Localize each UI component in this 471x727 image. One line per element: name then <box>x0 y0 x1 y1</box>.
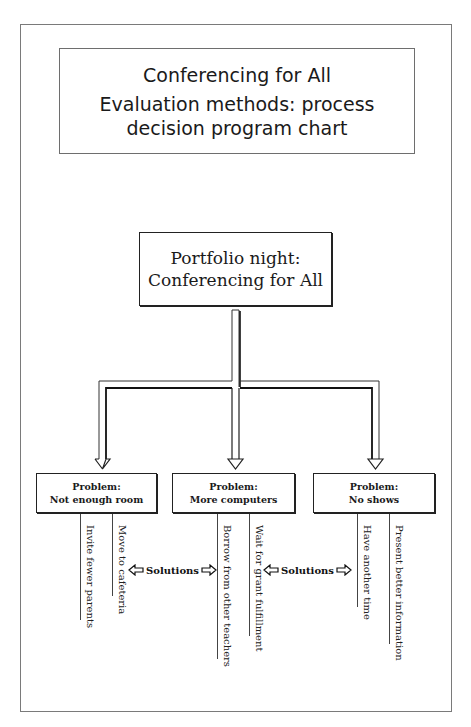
hollow-left-arrow-icon <box>263 564 279 576</box>
solution-text: Wait for grant fulfillment <box>253 525 265 652</box>
problem-name: No shows <box>349 493 399 506</box>
problem-name: More computers <box>190 493 278 506</box>
problem-label: Problem: <box>72 480 120 493</box>
solution-line <box>217 514 218 659</box>
down-arrow-icon <box>95 459 110 469</box>
hollow-right-arrow-icon <box>201 564 217 576</box>
trunk-connector <box>232 310 239 387</box>
solution-text: Borrow from other teachers <box>221 525 233 667</box>
down-arrow-icon <box>368 459 383 469</box>
problem-name: Not enough room <box>50 493 144 506</box>
solutions-label-2: Solutions <box>263 564 352 576</box>
problem-node-1: Problem: Not enough room <box>36 473 157 513</box>
solution-text: Present better information <box>393 525 405 661</box>
hollow-left-arrow-icon <box>128 564 144 576</box>
problem-label: Problem: <box>209 480 257 493</box>
solution-line <box>357 514 358 607</box>
solutions-text: Solutions <box>281 565 334 576</box>
problem-node-3: Problem: No shows <box>313 473 435 513</box>
problem-node-2: Problem: More computers <box>172 473 295 513</box>
problem-label: Problem: <box>350 480 398 493</box>
solution-text: Move to cafeteria <box>116 525 128 614</box>
solution-line <box>80 514 81 620</box>
down-arrow-icon <box>228 459 243 469</box>
solutions-text: Solutions <box>146 565 199 576</box>
solutions-label-1: Solutions <box>128 564 217 576</box>
solution-text: Have another time <box>361 525 373 620</box>
solution-line <box>389 514 390 644</box>
solution-line <box>112 514 113 596</box>
solution-line <box>249 514 250 636</box>
hollow-right-arrow-icon <box>336 564 352 576</box>
solution-text: Invite fewer parents <box>84 525 96 628</box>
